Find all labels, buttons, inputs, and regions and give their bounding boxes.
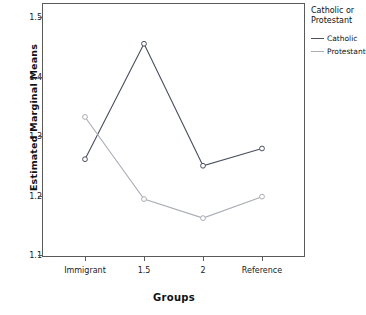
legend-line-swatch — [311, 51, 324, 52]
legend-line-swatch — [311, 38, 324, 39]
y-tick-label: 1.1 — [6, 251, 42, 260]
legend-title-line-2: Protestant — [311, 16, 362, 26]
legend-title: Catholic or Protestant — [311, 6, 362, 26]
legend-entry-protestant[interactable]: Protestant — [311, 46, 362, 57]
x-tick-mark — [203, 257, 204, 261]
legend-entry-catholic[interactable]: Catholic — [311, 33, 362, 44]
x-tick-label: Reference — [222, 266, 302, 275]
legend-title-line-1: Catholic or — [311, 6, 362, 16]
x-axis-title: Groups — [42, 292, 306, 303]
plot-area — [42, 3, 305, 257]
y-tick-label: 1.3 — [6, 132, 42, 141]
y-tick-label: 1.2 — [6, 191, 42, 200]
legend-entry-label: Protestant — [327, 47, 366, 56]
legend-entries: CatholicProtestant — [311, 33, 362, 57]
y-tick-label: 1.5 — [6, 13, 42, 22]
y-tick-label: 1.4 — [6, 72, 42, 81]
y-axis-ticks: 1.11.21.31.41.5 — [0, 0, 42, 315]
x-tick-mark — [262, 257, 263, 261]
legend: Catholic or Protestant CatholicProtestan… — [311, 6, 362, 59]
legend-entry-label: Catholic — [327, 34, 357, 43]
x-tick-mark — [144, 257, 145, 261]
x-tick-mark — [85, 257, 86, 261]
